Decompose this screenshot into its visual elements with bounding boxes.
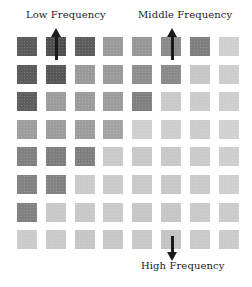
coefficient-cell xyxy=(132,120,152,139)
coefficient-cell xyxy=(103,92,123,111)
coefficient-cell xyxy=(17,147,37,166)
coefficient-cell xyxy=(161,147,181,166)
coefficient-cell xyxy=(46,230,66,249)
coefficient-cell xyxy=(103,175,123,194)
coefficient-cell xyxy=(46,65,66,84)
coefficient-cell xyxy=(161,92,181,111)
low-frequency-label: Low Frequency xyxy=(26,9,106,20)
coefficient-cell xyxy=(219,230,239,249)
coefficient-cell xyxy=(132,37,152,56)
coefficient-cell xyxy=(103,147,123,166)
coefficient-cell xyxy=(132,65,152,84)
coefficient-cell xyxy=(75,120,95,139)
coefficient-cell xyxy=(75,92,95,111)
coefficient-cell xyxy=(161,203,181,222)
coefficient-cell xyxy=(190,175,210,194)
coefficient-cell xyxy=(190,120,210,139)
coefficient-cell xyxy=(75,230,95,249)
coefficient-cell xyxy=(103,65,123,84)
coefficient-cell xyxy=(132,175,152,194)
coefficient-cell xyxy=(132,230,152,249)
coefficient-cell xyxy=(17,92,37,111)
coefficient-cell xyxy=(46,120,66,139)
coefficient-cell xyxy=(190,65,210,84)
coefficient-cell xyxy=(17,203,37,222)
coefficient-cell xyxy=(17,120,37,139)
coefficient-cell xyxy=(75,37,95,56)
coefficient-cell xyxy=(17,230,37,249)
coefficient-cell xyxy=(75,147,95,166)
coefficient-cell xyxy=(132,203,152,222)
coefficient-cell xyxy=(17,65,37,84)
coefficient-cell xyxy=(219,92,239,111)
coefficient-cell xyxy=(75,65,95,84)
coefficient-cell xyxy=(219,147,239,166)
coefficient-cell xyxy=(161,65,181,84)
coefficient-cell xyxy=(75,175,95,194)
coefficient-cell xyxy=(103,37,123,56)
coefficient-cell xyxy=(190,147,210,166)
coefficient-cell xyxy=(190,230,210,249)
coefficient-cell xyxy=(219,65,239,84)
coefficient-cell xyxy=(132,92,152,111)
coefficient-cell xyxy=(17,37,37,56)
coefficient-cell xyxy=(103,203,123,222)
coefficient-cell xyxy=(190,37,210,56)
coefficient-cell xyxy=(46,203,66,222)
coefficient-cell xyxy=(75,203,95,222)
coefficient-cell xyxy=(17,175,37,194)
coefficient-cell xyxy=(132,147,152,166)
coefficient-cell xyxy=(46,175,66,194)
coefficient-cell xyxy=(103,230,123,249)
coefficient-cell xyxy=(46,147,66,166)
coefficient-cell xyxy=(46,92,66,111)
coefficient-cell xyxy=(219,203,239,222)
coefficient-cell xyxy=(161,175,181,194)
coefficient-cell xyxy=(219,37,239,56)
coefficient-cell xyxy=(190,92,210,111)
middle-frequency-label: Middle Frequency xyxy=(138,9,232,20)
coefficient-cell xyxy=(190,203,210,222)
dct-coefficient-grid xyxy=(17,37,242,262)
coefficient-cell xyxy=(219,175,239,194)
coefficient-cell xyxy=(161,120,181,139)
coefficient-cell xyxy=(219,120,239,139)
coefficient-cell xyxy=(103,120,123,139)
